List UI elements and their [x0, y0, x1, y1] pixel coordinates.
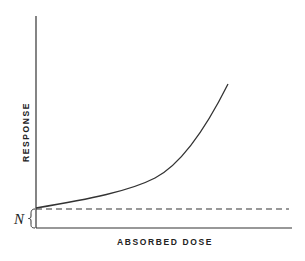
response-curve [36, 84, 228, 208]
y-axis-label: RESPONSE [21, 102, 31, 162]
baseline-label: N [13, 211, 25, 227]
x-axis-label: ABSORBED DOSE [117, 237, 213, 247]
dose-response-chart: N RESPONSE ABSORBED DOSE [0, 0, 305, 261]
baseline-brace [29, 209, 36, 228]
